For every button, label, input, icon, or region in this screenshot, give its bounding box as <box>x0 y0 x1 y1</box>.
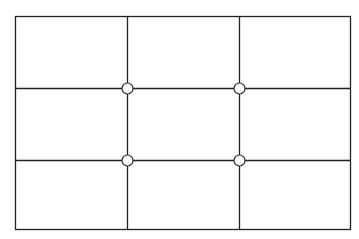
intersection-point <box>122 155 133 166</box>
rule-of-thirds-grid <box>0 0 359 239</box>
intersection-point <box>234 83 245 94</box>
intersection-point <box>234 155 245 166</box>
frame-border <box>16 17 351 230</box>
intersection-point <box>122 83 133 94</box>
